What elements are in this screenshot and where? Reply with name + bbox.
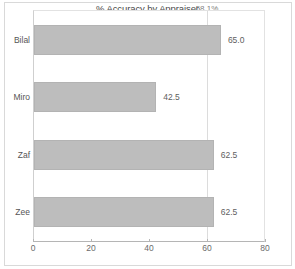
- bar-row: Bilal65.0: [34, 25, 264, 55]
- x-axis: 020406080: [33, 243, 265, 257]
- plot-area: Bilal65.0Miro42.5Zaf62.5Zee62.5: [33, 10, 265, 242]
- x-tick-label: 0: [31, 243, 36, 253]
- x-tick-label: 60: [202, 243, 211, 253]
- bar-value-label: 42.5: [156, 92, 180, 102]
- bar-row: Miro42.5: [34, 82, 264, 112]
- x-tick-mark: [33, 239, 34, 242]
- bar-row: Zee62.5: [34, 197, 264, 227]
- category-label: Miro: [13, 92, 30, 102]
- bar: [34, 25, 221, 55]
- category-label: Zaf: [18, 150, 30, 160]
- bars-layer: Bilal65.0Miro42.5Zaf62.5Zee62.5: [34, 11, 264, 241]
- bar-row: Zaf62.5: [34, 140, 264, 170]
- x-tick-mark: [207, 239, 208, 242]
- x-tick-mark: [149, 239, 150, 242]
- category-label: Zee: [15, 207, 30, 217]
- x-tick-mark: [265, 239, 266, 242]
- bar: [34, 82, 156, 112]
- bar-value-label: 62.5: [214, 207, 238, 217]
- bar-chart: % Accuracy by Appraiser 58.1% Bilal65.0M…: [0, 0, 295, 269]
- bar: [34, 197, 214, 227]
- x-tick-label: 40: [144, 243, 153, 253]
- category-label: Bilal: [14, 35, 30, 45]
- x-tick-label: 20: [86, 243, 95, 253]
- x-tick-label: 80: [260, 243, 269, 253]
- bar-value-label: 65.0: [221, 35, 245, 45]
- x-tick-mark: [91, 239, 92, 242]
- bar-value-label: 62.5: [214, 150, 238, 160]
- bar: [34, 140, 214, 170]
